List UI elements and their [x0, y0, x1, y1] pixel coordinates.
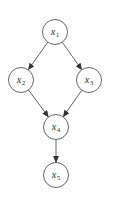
dag-diagram: x1 x2 x3 x4 x5 [0, 0, 113, 198]
nodes-layer [9, 20, 102, 188]
edge-x1-to-x2 [28, 42, 48, 70]
node-x1 [43, 20, 68, 45]
node-x5 [44, 163, 69, 188]
edges-layer [28, 42, 82, 162]
graph-svg [0, 0, 113, 198]
edge-x3-to-x4 [63, 90, 82, 117]
edge-x2-to-x4 [28, 90, 48, 117]
edge-x1-to-x3 [62, 42, 82, 70]
node-x2 [9, 68, 34, 93]
node-x4 [44, 115, 69, 140]
node-x3 [77, 68, 102, 93]
